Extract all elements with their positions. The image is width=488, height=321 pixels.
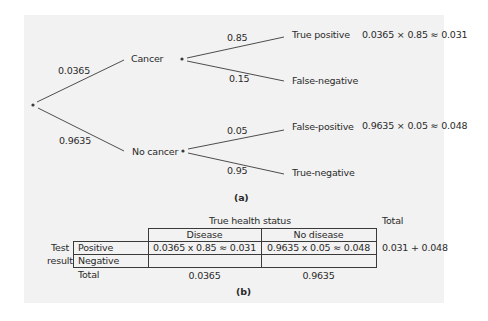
cell-positive-no-disease: 0.9635 x 0.05 ≈ 0.048 (261, 241, 376, 254)
calc-false-positive: 0.9635 × 0.05 ≈ 0.048 (362, 120, 467, 131)
total-disease: 0.0365 (148, 269, 261, 282)
no-cancer-node (181, 149, 184, 152)
row-group-test: Test (51, 241, 69, 254)
cell-positive-total: 0.031 + 0.048 (382, 241, 448, 254)
node-no-cancer: No cancer (132, 146, 178, 157)
calc-true-positive: 0.0365 × 0.85 ≈ 0.031 (362, 29, 467, 40)
leaf-false-positive: False-positive (292, 121, 354, 132)
caption-a: (a) (234, 192, 249, 203)
root-node (31, 103, 34, 106)
header-total: Total (382, 214, 403, 227)
prob-false-positive: 0.05 (227, 125, 247, 136)
prob-true-negative: 0.95 (227, 165, 247, 176)
row-negative-label: Negative (78, 254, 119, 267)
row-positive-label: Positive (78, 241, 113, 254)
leaf-true-positive: True positive (292, 29, 350, 40)
prob-true-positive: 0.85 (227, 32, 247, 43)
row-total-label: Total (78, 268, 99, 281)
leaf-true-negative: True-negative (292, 167, 355, 178)
header-true-health-status: True health status (209, 214, 291, 227)
col-disease: Disease (148, 228, 261, 241)
table-border-right (376, 228, 377, 268)
caption-b: (b) (236, 286, 251, 297)
prob-cancer: 0.0365 (58, 65, 90, 76)
cancer-node (180, 57, 183, 60)
leaf-false-negative: False-negative (292, 75, 358, 86)
table-border-left (73, 241, 74, 268)
node-cancer: Cancer (131, 53, 163, 64)
row-group-result: result (47, 254, 73, 267)
prob-false-negative: 0.15 (229, 73, 249, 84)
col-no-disease: No disease (261, 228, 376, 241)
cell-positive-disease: 0.0365 x 0.85 ≈ 0.031 (148, 241, 261, 254)
table-border-bottom (73, 267, 377, 268)
total-no-disease: 0.9635 (261, 269, 376, 282)
prob-no-cancer: 0.9635 (59, 135, 91, 146)
